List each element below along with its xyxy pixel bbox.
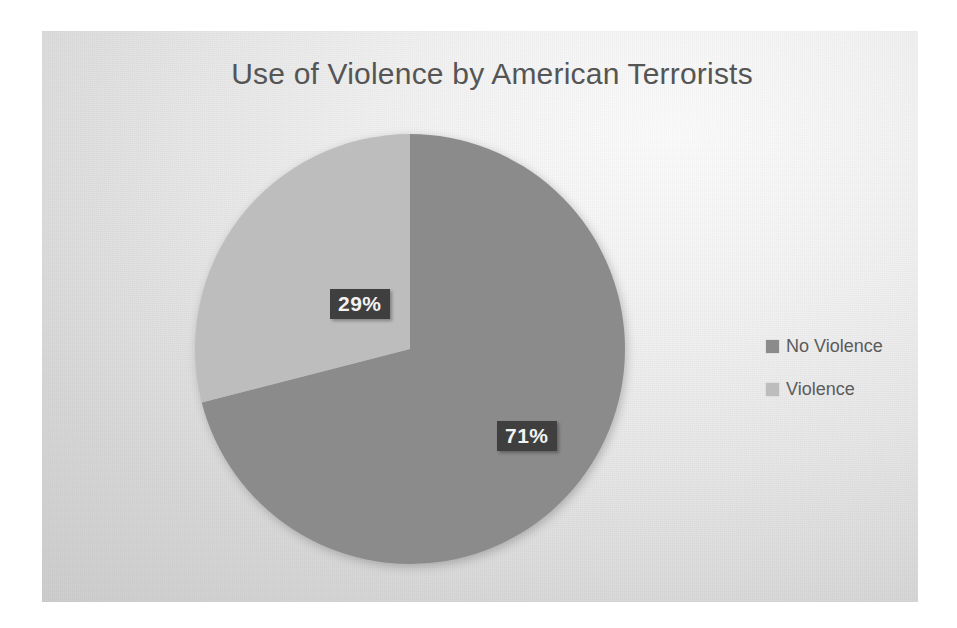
pie-graphic [195, 134, 625, 564]
pie-chart-panel: Use of Violence by American Terrorists 2… [42, 31, 918, 602]
legend-swatch-no-violence [766, 340, 779, 353]
legend-item-no-violence[interactable]: No Violence [766, 331, 916, 361]
legend-swatch-violence [766, 383, 779, 396]
pie-chart [195, 134, 625, 564]
screenshot-root: Use of Violence by American Terrorists 2… [0, 0, 957, 628]
data-label-violence: 29% [330, 289, 390, 319]
data-label-no-violence: 71% [497, 421, 557, 451]
chart-legend: No Violence Violence [766, 331, 916, 417]
legend-item-violence[interactable]: Violence [766, 374, 916, 404]
legend-label-violence: Violence [786, 379, 855, 400]
chart-title: Use of Violence by American Terrorists [42, 57, 918, 91]
legend-label-no-violence: No Violence [786, 336, 883, 357]
